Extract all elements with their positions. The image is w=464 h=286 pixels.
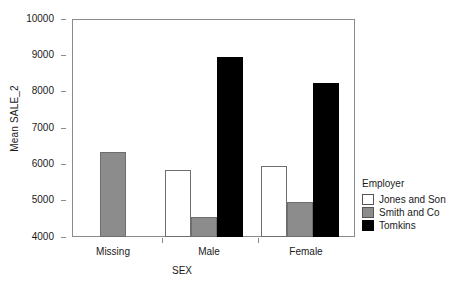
- legend: Employer Jones and Son Smith and Co Tomk…: [362, 178, 462, 233]
- legend-item-label: Jones and Son: [379, 194, 446, 205]
- legend-item-jones-and-son: Jones and Son: [362, 194, 462, 205]
- x-label-male: Male: [198, 246, 220, 258]
- y-tick-mark: [61, 237, 66, 238]
- legend-swatch-icon: [362, 194, 374, 205]
- y-tick-mark: [61, 55, 66, 56]
- legend-title: Employer: [362, 178, 462, 190]
- bar-chart: Mean SALE_2 10000 9000 8000 7000 6000 50…: [0, 0, 464, 286]
- y-tick-label: 4000: [32, 231, 54, 242]
- bar-female-jones-and-son: [261, 166, 287, 237]
- y-tick-mark: [61, 128, 66, 129]
- x-axis-title: SEX: [172, 265, 192, 276]
- x-tick-divider-2: [258, 238, 259, 243]
- y-tick-mark: [61, 200, 66, 201]
- y-tick-mark: [61, 19, 66, 20]
- legend-item-smith-and-co: Smith and Co: [362, 207, 462, 218]
- y-tick-mark: [61, 91, 66, 92]
- y-tick-label: 5000: [32, 194, 54, 205]
- legend-item-tomkins: Tomkins: [362, 220, 462, 231]
- legend-item-label: Tomkins: [379, 220, 416, 231]
- y-tick-label: 10000: [26, 13, 54, 24]
- y-tick-mark: [61, 164, 66, 165]
- x-tick-divider-1: [162, 238, 163, 243]
- y-tick-label: 7000: [32, 122, 54, 133]
- legend-swatch-icon: [362, 220, 374, 231]
- bars-layer: [72, 19, 355, 237]
- x-label-female: Female: [289, 246, 322, 258]
- y-tick-label: 9000: [32, 49, 54, 60]
- x-axis-title-wrap: SEX: [0, 265, 464, 276]
- legend-swatch-icon: [362, 207, 374, 218]
- bar-female-smith-and-co: [287, 202, 313, 237]
- bar-female-tomkins: [313, 83, 339, 237]
- bar-male-jones-and-son: [165, 170, 191, 237]
- legend-item-label: Smith and Co: [379, 207, 440, 218]
- bar-male-tomkins: [217, 57, 243, 237]
- bar-missing-smith-and-co: [100, 152, 126, 237]
- x-label-missing: Missing: [96, 246, 130, 258]
- y-tick-label: 6000: [32, 158, 54, 169]
- y-tick-label: 8000: [32, 85, 54, 96]
- bar-male-smith-and-co: [191, 217, 217, 237]
